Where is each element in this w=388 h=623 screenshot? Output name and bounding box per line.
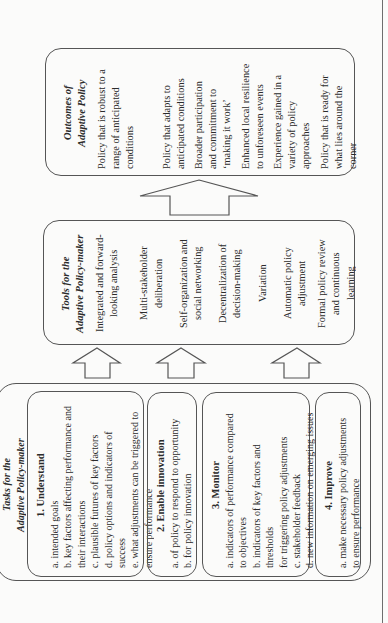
outcome-item-1: Policy that is robust to a range of anti… bbox=[95, 57, 138, 169]
task-line: a. make necessary policy adjustments bbox=[336, 401, 349, 568]
tools-title-line2: Adaptive Policy-maker bbox=[73, 227, 87, 340]
tools-box: Tools for the Adaptive Policy-maker Inte… bbox=[43, 220, 355, 345]
tool-line: Automatic policy bbox=[281, 227, 295, 340]
tool-line: learning bbox=[344, 227, 358, 340]
outcome-item-6: Policy that is ready for what lies aroun… bbox=[318, 57, 361, 169]
tools-title-line1: Tools for the bbox=[59, 227, 73, 340]
tool-item-1: Integrated and forward- looking analysis bbox=[93, 227, 121, 340]
tasks-title-line2: Adaptive Policy-maker bbox=[14, 395, 28, 575]
outcome-line: Enhanced local resilience bbox=[239, 57, 253, 169]
outcome-line: Policy that adapts to bbox=[160, 57, 174, 169]
task-line: a. of policy to respond to opportunity bbox=[168, 401, 181, 568]
task-line: c. stakeholder feedback bbox=[290, 401, 303, 568]
outcome-line: approaches bbox=[299, 57, 313, 169]
task-line: b. for policy innovation bbox=[181, 401, 194, 568]
task-monitor-title: 3. Monitor bbox=[209, 403, 223, 568]
outcome-line: anticipated conditions bbox=[174, 57, 188, 169]
task-line: d. policy options and indicators of succ… bbox=[102, 400, 129, 568]
tool-line: adjustment bbox=[295, 227, 309, 340]
tool-line: Self-organization and bbox=[177, 227, 191, 340]
tool-line: Decentralization of bbox=[216, 227, 230, 340]
task-line: for triggering policy adjustments bbox=[277, 401, 290, 568]
outcome-line: conditions bbox=[123, 57, 137, 169]
outcome-line: Broader participation bbox=[192, 57, 206, 169]
task-understand-box: 1. Understand a. intended goals b. key f… bbox=[27, 391, 144, 577]
task-line: b. key factors affecting performance and bbox=[61, 400, 74, 568]
outcome-line: to unforeseen events bbox=[253, 57, 267, 169]
outcome-item-2: Policy that adapts to anticipated condit… bbox=[160, 57, 188, 169]
task-improve-content: 4. Improve a. make necessary policy adju… bbox=[322, 401, 356, 568]
tool-line: deliberation bbox=[152, 227, 166, 340]
outcome-item-5: Experience gained in a variety of policy… bbox=[271, 57, 314, 169]
arrow-up-icon bbox=[73, 348, 120, 378]
task-enable-content: 2. Enable innovation a. of policy to res… bbox=[154, 401, 192, 568]
outcome-line: corner bbox=[346, 57, 360, 169]
tool-line: Integrated and forward- bbox=[93, 227, 107, 340]
tasks-title-line1: Tasks for the bbox=[0, 395, 14, 575]
task-understand-content: 1. Understand a. intended goals b. key f… bbox=[34, 400, 139, 568]
outcome-line: Policy that is ready for bbox=[318, 57, 332, 169]
page-margin-rule bbox=[382, 0, 383, 623]
tool-item-2: Multi-stakeholder deliberation bbox=[137, 227, 165, 340]
arrow-up-icon bbox=[272, 348, 320, 378]
outcome-item-3: Broader participation and commitment to … bbox=[192, 57, 235, 169]
task-line: to objectives bbox=[236, 401, 249, 568]
tool-line: Multi-stakeholder bbox=[137, 227, 151, 340]
outcome-item-4: Enhanced local resilience to unforeseen … bbox=[239, 57, 267, 169]
task-enable-innovation-box: 2. Enable innovation a. of policy to res… bbox=[147, 392, 197, 577]
task-monitor-box: 3. Monitor a. indicators of performance … bbox=[202, 392, 310, 577]
tool-line: social networking bbox=[191, 227, 205, 340]
outcome-line: what lies around the bbox=[332, 57, 346, 169]
task-line: to ensure performance bbox=[349, 401, 362, 568]
tool-line: looking analysis bbox=[107, 227, 121, 340]
task-line: e. what adjustments can be triggered to bbox=[128, 400, 141, 568]
task-improve-title: 4. Improve bbox=[322, 403, 336, 568]
tool-item-6: Automatic policy adjustment bbox=[281, 227, 309, 340]
task-line: b. indicators of key factors and thresho… bbox=[250, 401, 277, 568]
outcomes-content: Outcomes of Adaptive Policy Policy that … bbox=[61, 57, 346, 169]
outcomes-box: Outcomes of Adaptive Policy Policy that … bbox=[45, 48, 355, 176]
arrow-up-icon bbox=[140, 180, 258, 215]
task-monitor-content: 3. Monitor a. indicators of performance … bbox=[209, 401, 305, 568]
arrow-up-icon bbox=[157, 348, 205, 378]
tool-line: decision-making bbox=[230, 227, 244, 340]
outcomes-title: Outcomes of Adaptive Policy bbox=[61, 57, 89, 169]
tasks-title-text: Tasks for the Adaptive Policy-maker bbox=[0, 395, 27, 575]
task-understand-title: 1. Understand bbox=[34, 402, 48, 568]
outcomes-title-line2: Adaptive Policy bbox=[75, 57, 89, 169]
tool-item-4: Decentralization of decision-making bbox=[216, 227, 244, 340]
tools-title: Tools for the Adaptive Policy-maker bbox=[59, 227, 87, 340]
task-improve-box: 4. Improve a. make necessary policy adju… bbox=[315, 392, 361, 577]
tasks-title: Tasks for the Adaptive Policy-maker bbox=[0, 395, 28, 575]
tool-line: Variation bbox=[256, 227, 270, 340]
tools-content: Tools for the Adaptive Policy-maker Inte… bbox=[59, 227, 349, 340]
tool-line: and continuous bbox=[329, 227, 343, 340]
outcome-line: and commitment to bbox=[206, 57, 220, 169]
outcome-line: Experience gained in a bbox=[271, 57, 285, 169]
task-line: c. plausible futures of key factors bbox=[88, 400, 101, 568]
outcome-line: Policy that is robust to a bbox=[95, 57, 109, 169]
tool-item-3: Self-organization and social networking bbox=[177, 227, 205, 340]
outcomes-title-line1: Outcomes of bbox=[61, 57, 75, 169]
task-line: a. intended goals bbox=[48, 400, 61, 568]
tool-item-7: Formal policy review and continuous lear… bbox=[315, 227, 358, 340]
outcome-line: ‘making it work’ bbox=[220, 57, 234, 169]
task-line: their interactions bbox=[75, 400, 88, 568]
outcome-line: range of anticipated bbox=[109, 57, 123, 169]
tool-line: Formal policy review bbox=[315, 227, 329, 340]
task-enable-title: 2. Enable innovation bbox=[154, 403, 168, 568]
tool-item-5: Variation bbox=[256, 227, 270, 340]
task-line: a. indicators of performance compared bbox=[223, 401, 236, 568]
outcome-line: variety of policy bbox=[285, 57, 299, 169]
